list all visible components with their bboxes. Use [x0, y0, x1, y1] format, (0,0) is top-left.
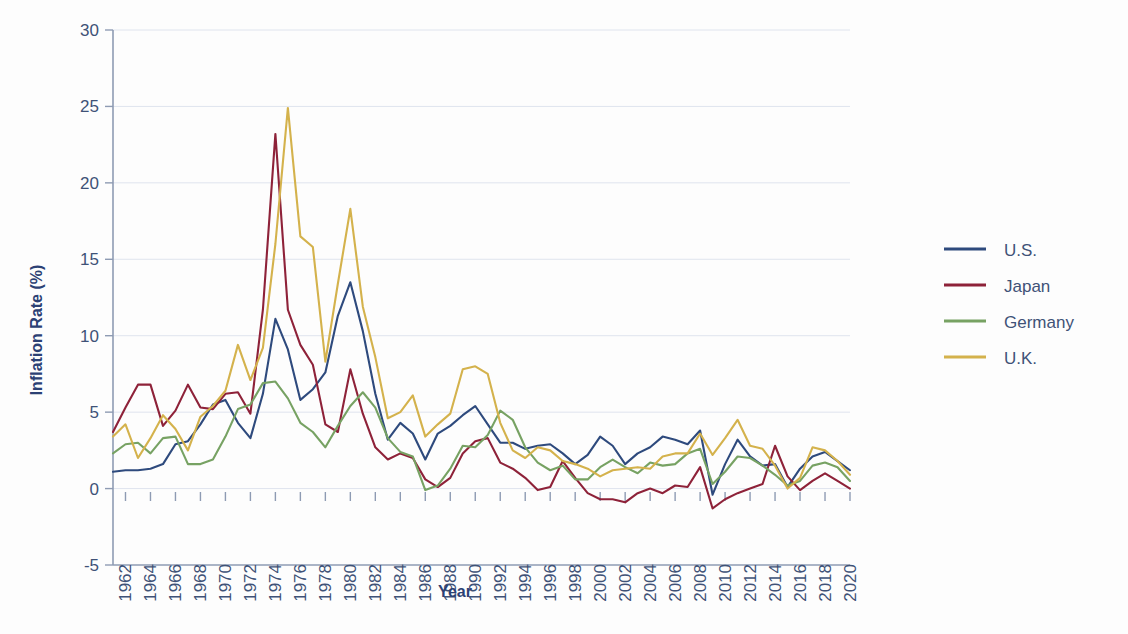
x-tick-label: 2006	[666, 564, 685, 602]
legend-label-uk: U.K.	[1004, 349, 1037, 368]
x-tick-label: 1984	[391, 564, 410, 602]
y-tick-label: 5	[90, 403, 99, 422]
x-tick-label: 1986	[416, 564, 435, 602]
x-tick-label: 1998	[566, 564, 585, 602]
x-tick-label: 2020	[841, 564, 860, 602]
y-tick-label: 30	[80, 21, 99, 40]
chart-legend: U.S.JapanGermanyU.K.	[944, 241, 1074, 368]
series-line-us	[113, 282, 850, 494]
legend-label-germany: Germany	[1004, 313, 1074, 332]
x-axis-tick-labels: 1962196419661968197019721974197619781980…	[116, 564, 860, 602]
y-axis-tick-labels: -5051015202530	[80, 21, 99, 575]
x-tick-label: 1970	[216, 564, 235, 602]
x-tick-label: 1962	[116, 564, 135, 602]
y-tick-label: 20	[80, 174, 99, 193]
y-tick-label: -5	[84, 556, 99, 575]
x-tick-label: 2000	[591, 564, 610, 602]
series-line-germany	[113, 382, 850, 491]
series-line-uk	[113, 108, 850, 489]
y-tick-label: 10	[80, 327, 99, 346]
x-tick-label: 1968	[191, 564, 210, 602]
x-tick-label: 2002	[616, 564, 635, 602]
x-tick-label: 1992	[491, 564, 510, 602]
y-tick-label: 0	[90, 480, 99, 499]
series-line-japan	[113, 134, 850, 509]
x-tick-label: 1964	[141, 564, 160, 602]
inflation-rate-line-chart: -5051015202530 1962196419661968197019721…	[0, 0, 1128, 634]
axes	[113, 30, 850, 565]
x-tick-label: 1972	[241, 564, 260, 602]
x-tick-label: 1974	[266, 564, 285, 602]
y-axis-title: Inflation Rate (%)	[28, 265, 45, 396]
x-tick-label: 1994	[516, 564, 535, 602]
x-tick-label: 1976	[291, 564, 310, 602]
x-tick-label: 2018	[816, 564, 835, 602]
x-tick-label: 2010	[716, 564, 735, 602]
x-tick-label: 2016	[791, 564, 810, 602]
legend-label-japan: Japan	[1004, 277, 1050, 296]
x-tick-label: 1996	[541, 564, 560, 602]
y-tick-label: 25	[80, 97, 99, 116]
x-tick-label: 1980	[341, 564, 360, 602]
data-series-lines	[113, 108, 850, 508]
x-tick-label: 2004	[641, 564, 660, 602]
y-tick-label: 15	[80, 250, 99, 269]
grid-lines	[113, 30, 850, 489]
x-tick-label: 1982	[366, 564, 385, 602]
tick-marks	[105, 30, 850, 565]
x-tick-label: 1966	[166, 564, 185, 602]
chart-figure: -5051015202530 1962196419661968197019721…	[0, 0, 1128, 634]
x-tick-label: 2012	[741, 564, 760, 602]
x-tick-label: 2014	[766, 564, 785, 602]
x-axis-title: Year	[438, 583, 472, 600]
x-tick-label: 2008	[691, 564, 710, 602]
legend-label-us: U.S.	[1004, 241, 1037, 260]
x-tick-label: 1978	[316, 564, 335, 602]
